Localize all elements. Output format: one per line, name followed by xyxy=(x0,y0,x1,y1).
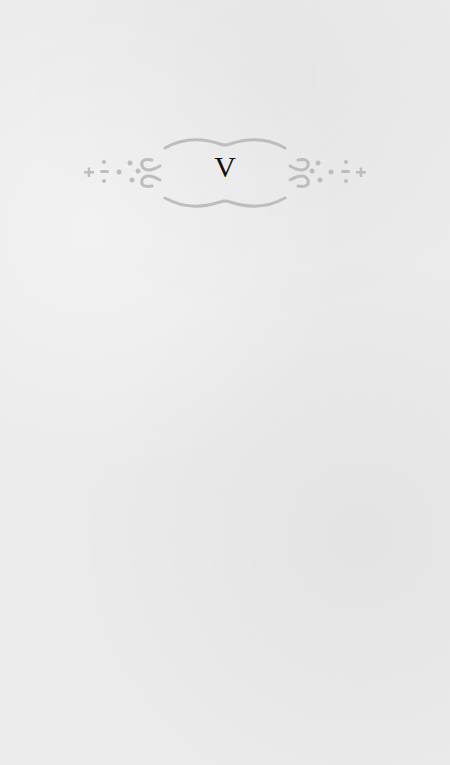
chapter-number: V xyxy=(0,152,450,182)
book-page: V xyxy=(0,0,450,765)
